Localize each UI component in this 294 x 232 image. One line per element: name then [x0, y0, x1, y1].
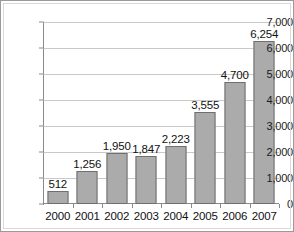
- bar-value-label: 6,254: [250, 28, 278, 40]
- y-tick-mark: [39, 204, 44, 205]
- y-tick-mark: [39, 152, 44, 153]
- x-tick-mark: [102, 204, 103, 208]
- bar[interactable]: [77, 171, 98, 204]
- y-tick-label: 2,000: [255, 146, 293, 158]
- y-tick-mark: [39, 100, 44, 101]
- x-tick-mark: [132, 204, 133, 208]
- y-tick-label: 0: [255, 198, 293, 210]
- y-tick-mark: [39, 22, 44, 23]
- bar-series: 5121,2561,9501,8472,2233,5554,7006,254: [43, 22, 279, 204]
- bar-value-label: 1,847: [132, 143, 160, 155]
- x-tick-label: 2000: [45, 210, 70, 222]
- bar-chart: 5121,2561,9501,8472,2233,5554,7006,254 0…: [0, 0, 294, 232]
- x-tick-label: 2002: [104, 210, 129, 222]
- bar-slot: 2,223: [161, 22, 191, 204]
- y-tick-label: 3,000: [255, 120, 293, 132]
- bar[interactable]: [106, 153, 127, 204]
- bar-slot: 512: [43, 22, 73, 204]
- y-tick-mark: [39, 178, 44, 179]
- bar-slot: 1,256: [73, 22, 103, 204]
- y-tick-mark: [39, 126, 44, 127]
- bar-slot: 1,950: [102, 22, 132, 204]
- bar[interactable]: [224, 82, 245, 204]
- y-tick-label: 7,000: [255, 16, 293, 28]
- bar-slot: 4,700: [220, 22, 250, 204]
- bar-value-label: 1,256: [73, 158, 101, 170]
- bar-slot: 3,555: [191, 22, 221, 204]
- y-tick-label: 1,000: [255, 172, 293, 184]
- y-tick-label: 5,000: [255, 68, 293, 80]
- x-tick-mark: [161, 204, 162, 208]
- x-tick-label: 2007: [252, 210, 277, 222]
- bar-value-label: 512: [48, 178, 67, 190]
- y-tick-mark: [39, 48, 44, 49]
- bar[interactable]: [195, 112, 216, 204]
- bar-value-label: 2,223: [162, 133, 190, 145]
- x-tick-mark: [220, 204, 221, 208]
- y-tick-label: 6,000: [255, 42, 293, 54]
- plot-area: 5121,2561,9501,8472,2233,5554,7006,254: [43, 22, 279, 204]
- bar[interactable]: [165, 146, 186, 204]
- y-tick-mark: [39, 74, 44, 75]
- bar-value-label: 3,555: [191, 99, 219, 111]
- x-tick-mark: [279, 204, 280, 208]
- x-tick-label: 2003: [134, 210, 159, 222]
- y-axis: [1, 1, 43, 232]
- x-tick-label: 2006: [222, 210, 247, 222]
- x-tick-mark: [191, 204, 192, 208]
- bar-slot: 1,847: [132, 22, 162, 204]
- x-tick-label: 2004: [163, 210, 188, 222]
- bar[interactable]: [47, 191, 68, 204]
- x-tick-label: 2005: [193, 210, 218, 222]
- bar[interactable]: [136, 156, 157, 204]
- x-tick-mark: [250, 204, 251, 208]
- bar-value-label: 4,700: [221, 69, 249, 81]
- x-tick-label: 2001: [75, 210, 100, 222]
- y-tick-label: 4,000: [255, 94, 293, 106]
- bar-value-label: 1,950: [103, 140, 131, 152]
- x-tick-mark: [73, 204, 74, 208]
